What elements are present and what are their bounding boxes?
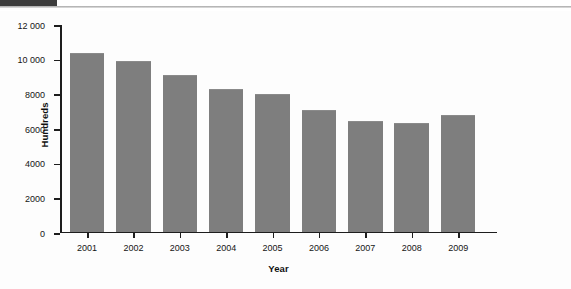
x-axis-tick-label: 2006 [309, 243, 329, 253]
x-axis-tick-label: 2001 [77, 243, 97, 253]
x-axis-tick-mark [319, 233, 321, 238]
y-axis-tick-label: 8000 [25, 90, 45, 100]
bar-2005 [255, 94, 290, 232]
page-header-band [0, 0, 571, 11]
y-axis-tick-mark: 2000 [54, 198, 60, 200]
x-axis-line [60, 232, 497, 234]
y-axis-line [60, 25, 62, 233]
y-axis-tick-label: 2000 [25, 194, 45, 204]
x-axis-tick-label: 2003 [170, 243, 190, 253]
x-axis-tick-label: 2009 [448, 243, 468, 253]
x-axis-tick-label: 2002 [123, 243, 143, 253]
bar-2007 [348, 121, 383, 232]
x-axis-tick-mark [365, 233, 367, 238]
bar-2006 [302, 110, 337, 232]
x-axis-tick-label: 2004 [216, 243, 236, 253]
x-axis-title: Year [60, 263, 497, 274]
y-axis-tick-mark: 0 [54, 233, 60, 235]
bar-2002 [116, 61, 151, 232]
x-axis-tick-label: 2008 [402, 243, 422, 253]
plot-area: 0200040006000800010 00012 000 2001200220… [60, 25, 497, 233]
x-axis-tick-mark [133, 233, 135, 238]
header-divider-rule [0, 6, 571, 8]
bar-chart-figure: Hundreds 0200040006000800010 00012 000 2… [0, 11, 571, 289]
x-axis-tick-mark [226, 233, 228, 238]
y-axis-tick-label: 12 000 [17, 21, 45, 31]
bar-2009 [441, 115, 476, 232]
y-axis-tick-mark: 4000 [54, 164, 60, 166]
y-axis-tick-mark: 10 000 [54, 60, 60, 62]
y-axis-tick-mark: 12 000 [54, 25, 60, 27]
y-axis-tick-label: 0 [40, 229, 45, 239]
x-axis-tick-mark [458, 233, 460, 238]
y-axis-tick-mark: 6000 [54, 129, 60, 131]
x-axis-tick-mark [273, 233, 275, 238]
x-axis-tick-mark [412, 233, 414, 238]
y-axis-tick-label: 6000 [25, 125, 45, 135]
y-axis-tick-mark: 8000 [54, 94, 60, 96]
bar-2001 [70, 53, 105, 232]
bar-2008 [394, 123, 429, 231]
x-axis-tick-label: 2005 [263, 243, 283, 253]
x-axis-tick-mark [87, 233, 89, 238]
x-axis-tick-label: 2007 [355, 243, 375, 253]
bar-2003 [163, 75, 198, 232]
y-axis-tick-label: 4000 [25, 159, 45, 169]
x-axis-tick-mark [180, 233, 182, 238]
y-axis-tick-label: 10 000 [17, 55, 45, 65]
bar-2004 [209, 89, 244, 232]
